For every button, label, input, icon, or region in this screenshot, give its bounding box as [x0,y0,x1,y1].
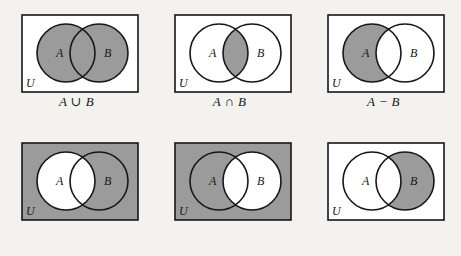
venn-figure-b-minus-a: ABU [306,128,461,238]
label-set-b: B [104,46,112,60]
label-universe: U [26,76,36,90]
label-universe: U [332,76,342,90]
venn-diagram-grid: ABUA ∪ BABUA ∩ BABUA − BABUA′ABUB′ABUB −… [0,0,461,256]
label-set-b: B [257,46,265,60]
label-universe: U [179,204,189,218]
venn-panel-b-minus-a: ABUB − A [306,128,461,256]
label-set-b: B [257,174,265,188]
label-set-b: B [410,174,418,188]
venn-panel-a-minus-b: ABUA − B [306,0,461,128]
label-set-a: A [55,46,64,60]
label-set-a: A [361,174,370,188]
panel-caption: A ∩ B [153,94,306,110]
label-universe: U [26,204,36,218]
label-set-a: A [208,46,217,60]
venn-figure-b-complement: ABU [153,128,308,238]
label-set-a: A [55,174,64,188]
label-universe: U [332,204,342,218]
label-universe: U [179,76,189,90]
label-set-b: B [410,46,418,60]
panel-caption: A ∪ B [0,94,153,110]
venn-panel-a-union-b: ABUA ∪ B [0,0,153,128]
label-set-a: A [361,46,370,60]
label-set-a: A [208,174,217,188]
venn-panel-b-complement: ABUB′ [153,128,306,256]
label-set-b: B [104,174,112,188]
panel-caption: A − B [306,94,461,110]
venn-figure-a-complement: ABU [0,128,155,238]
venn-panel-a-complement: ABUA′ [0,128,153,256]
venn-panel-a-intersect-b: ABUA ∩ B [153,0,306,128]
